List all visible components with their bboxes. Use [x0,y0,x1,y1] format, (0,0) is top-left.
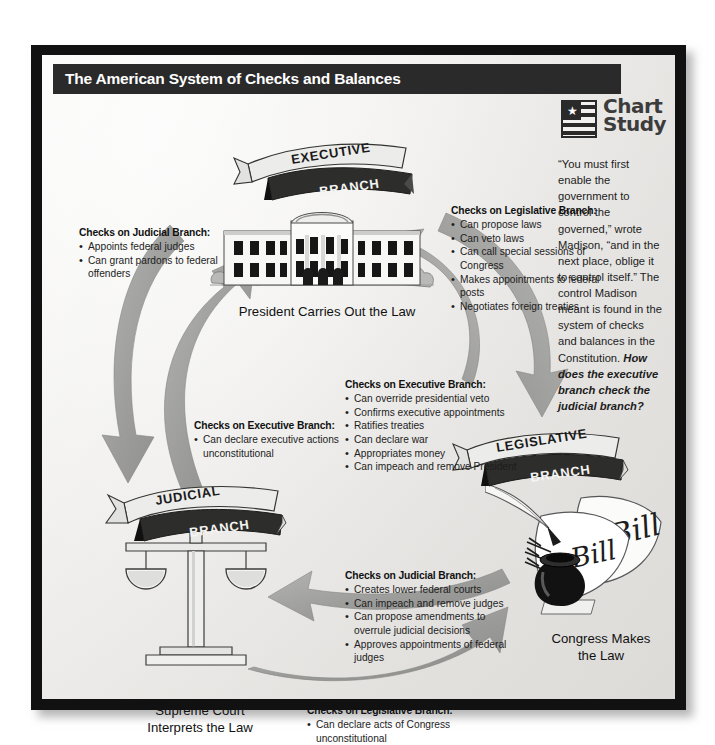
callout-list: Can declare executive actions unconstitu… [194,433,346,460]
list-item: Can veto laws [451,232,611,246]
callout-list: Can declare acts of Congress unconstitut… [307,718,487,745]
list-item: Can override presidential veto [345,392,535,406]
list-item: Can propose laws [451,218,611,232]
list-item: Approves appointments of federal judges [345,638,525,665]
list-item: Appoints federal judges [79,240,229,254]
callout-list: Appoints federal judges Can grant pardon… [79,240,229,281]
list-item: Can propose amendments to overrule judic… [345,610,525,637]
banner-judicial-branch: JUDICIAL BRANCH [106,479,286,549]
list-item: Can grant pardons to federal offenders [79,254,229,281]
diagram-frame: The American System of Checks and Balanc… [31,45,686,710]
list-item: Can declare acts of Congress unconstitut… [307,718,487,745]
list-item: Appropriates money [345,447,535,461]
logo-word-study: Study [603,115,666,133]
page-title-bar: The American System of Checks and Balanc… [53,64,621,94]
star-icon: ★ [563,102,581,120]
list-item: Can impeach and remove President [345,460,535,474]
chart-study-logo: ★ Chart Study [561,97,664,149]
callout-legislative-checks-judicial: Checks on Judicial Branch: Creates lower… [345,570,525,665]
list-item: Negotiates foreign treaties [451,300,611,314]
list-item: Can declare war [345,433,535,447]
callout-list: Can override presidential veto Confirms … [345,392,535,474]
callout-judicial-checks-executive: Checks on Executive Branch: Can declare … [194,420,346,460]
page-title: The American System of Checks and Balanc… [53,70,401,88]
callout-heading: Checks on Executive Branch: [345,379,535,390]
list-item: Makes appointments to federal posts [451,273,611,300]
banner-executive-branch: EXECUTIVE BRANCH [234,138,414,208]
callout-heading: Checks on Judicial Branch: [79,227,229,238]
list-item: Can impeach and remove judges [345,597,525,611]
list-item: Confirms executive appointments [345,406,535,420]
chart-study-wordmark: Chart Study [603,97,666,134]
list-item: Can declare executive actions unconstitu… [194,433,346,460]
callout-list: Creates lower federal courts Can impeach… [345,583,525,665]
callout-judicial-checks-legislative: Checks on Legislative Branch: Can declar… [307,705,487,745]
flag-star-icon: ★ [561,100,597,138]
caption-president: President Carries Out the Law [202,304,452,321]
list-item: Creates lower federal courts [345,583,525,597]
callout-list: Can propose laws Can veto laws Can call … [451,218,611,314]
caption-congress: Congress Makes the Law [531,631,671,665]
list-item: Ratifies treaties [345,419,535,433]
diagram-panel: The American System of Checks and Balanc… [42,55,675,699]
callout-heading: Checks on Judicial Branch: [345,570,525,581]
callout-heading: Checks on Legislative Branch: [451,205,611,216]
callout-executive-checks-legislative: Checks on Legislative Branch: Can propos… [451,205,611,314]
callout-heading: Checks on Legislative Branch: [307,705,487,716]
list-item: Can call special sessions of Congress [451,245,611,272]
callout-heading: Checks on Executive Branch: [194,420,346,431]
white-house-illustration [208,205,436,309]
callout-legislative-checks-executive: Checks on Executive Branch: Can override… [345,379,535,474]
callout-executive-checks-judicial: Checks on Judicial Branch: Appoints fede… [79,227,229,281]
caption-supreme-court: Supreme Court Interprets the Law [100,703,300,737]
